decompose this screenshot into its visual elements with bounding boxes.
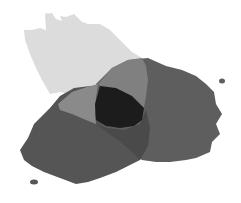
left-blob-splatter bbox=[30, 180, 38, 185]
right-blob-splatter bbox=[219, 79, 225, 84]
venn-diagram bbox=[0, 0, 241, 203]
